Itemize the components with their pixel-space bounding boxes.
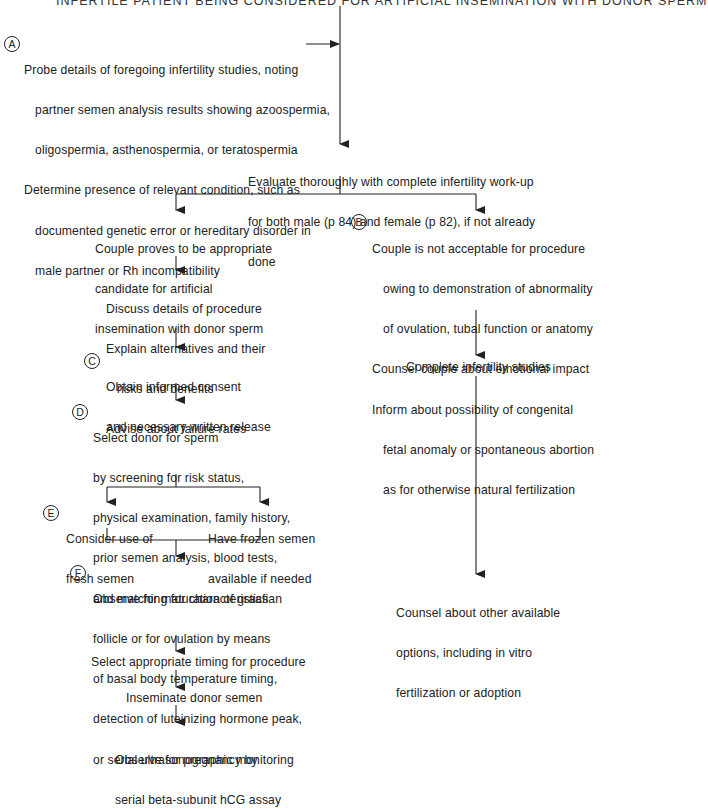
node-counsel-other-line: Counsel about other available [396,607,560,620]
node-f-line: follicle or for ovulation by means [93,633,302,646]
node-d-line: Select donor for sperm [93,432,290,445]
node-evaluate-line: Evaluate thoroughly with complete infert… [248,176,535,189]
node-a-line: partner semen analysis results showing a… [24,104,330,117]
node-b-line: of ovulation, tubal function or anatomy [372,323,594,336]
label-b-circle: B [351,214,367,230]
node-discuss-line: Discuss details of procedure [106,303,266,316]
node-f-line: of basal body temperature timing, [93,673,302,686]
node-complete-text: Complete infertility studies [406,361,551,374]
node-c-line: Obtain informed consent [106,381,271,394]
node-counsel-other-text: Counsel about other available options, i… [396,580,560,714]
node-pregnancy-line: serial beta-subunit hCG assay [115,794,281,807]
node-d-line: by screening for risk status, [93,472,290,485]
node-b-line: Inform about possibility of congenital [372,404,594,417]
node-pregnancy-text: Observe for pregnancy by serial beta-sub… [115,727,281,811]
node-inseminate-text: Inseminate donor semen [126,692,262,705]
node-b-line: owing to demonstration of abnormality [372,283,594,296]
label-a-circle: A [4,36,20,52]
node-b-line: as for otherwise natural fertilization [372,484,594,497]
node-pregnancy-line: Observe for pregnancy by [115,754,281,767]
node-b-line: Couple is not acceptable for procedure [372,243,594,256]
label-d-circle: D [72,404,88,420]
node-b-line: fetal anomaly or spontaneous abortion [372,444,594,457]
node-f-line: Observe for maturation of graafian [93,593,302,606]
node-counsel-other-line: options, including in vitro [396,647,560,660]
node-f-line: detection of luteinizing hormone peak, [93,713,302,726]
label-f-circle: F [70,565,86,581]
node-timing-text: Select appropriate timing for procedure [91,656,306,669]
node-counsel-other-line: fertilization or adoption [396,687,560,700]
node-appropriate-line: Couple proves to be appropriate [95,243,272,256]
node-frozen-line: Have frozen semen [208,533,315,546]
node-a-line: Probe details of foregoing infertility s… [24,64,330,77]
label-e-circle: E [43,505,59,521]
node-e-line: Consider use of [66,533,153,546]
label-c-circle: C [84,353,100,369]
